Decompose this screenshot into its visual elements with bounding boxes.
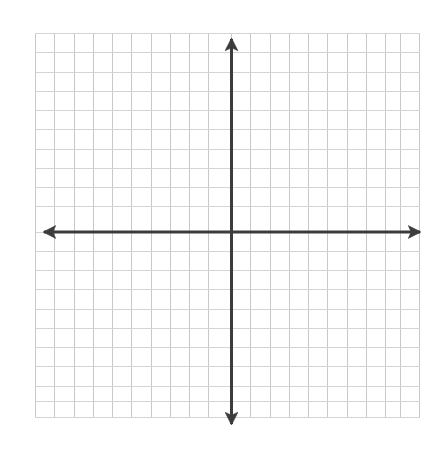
coordinate-plane-canvas	[0, 0, 434, 449]
coordinate-grid-figure	[0, 0, 434, 449]
figure-background	[0, 0, 434, 449]
